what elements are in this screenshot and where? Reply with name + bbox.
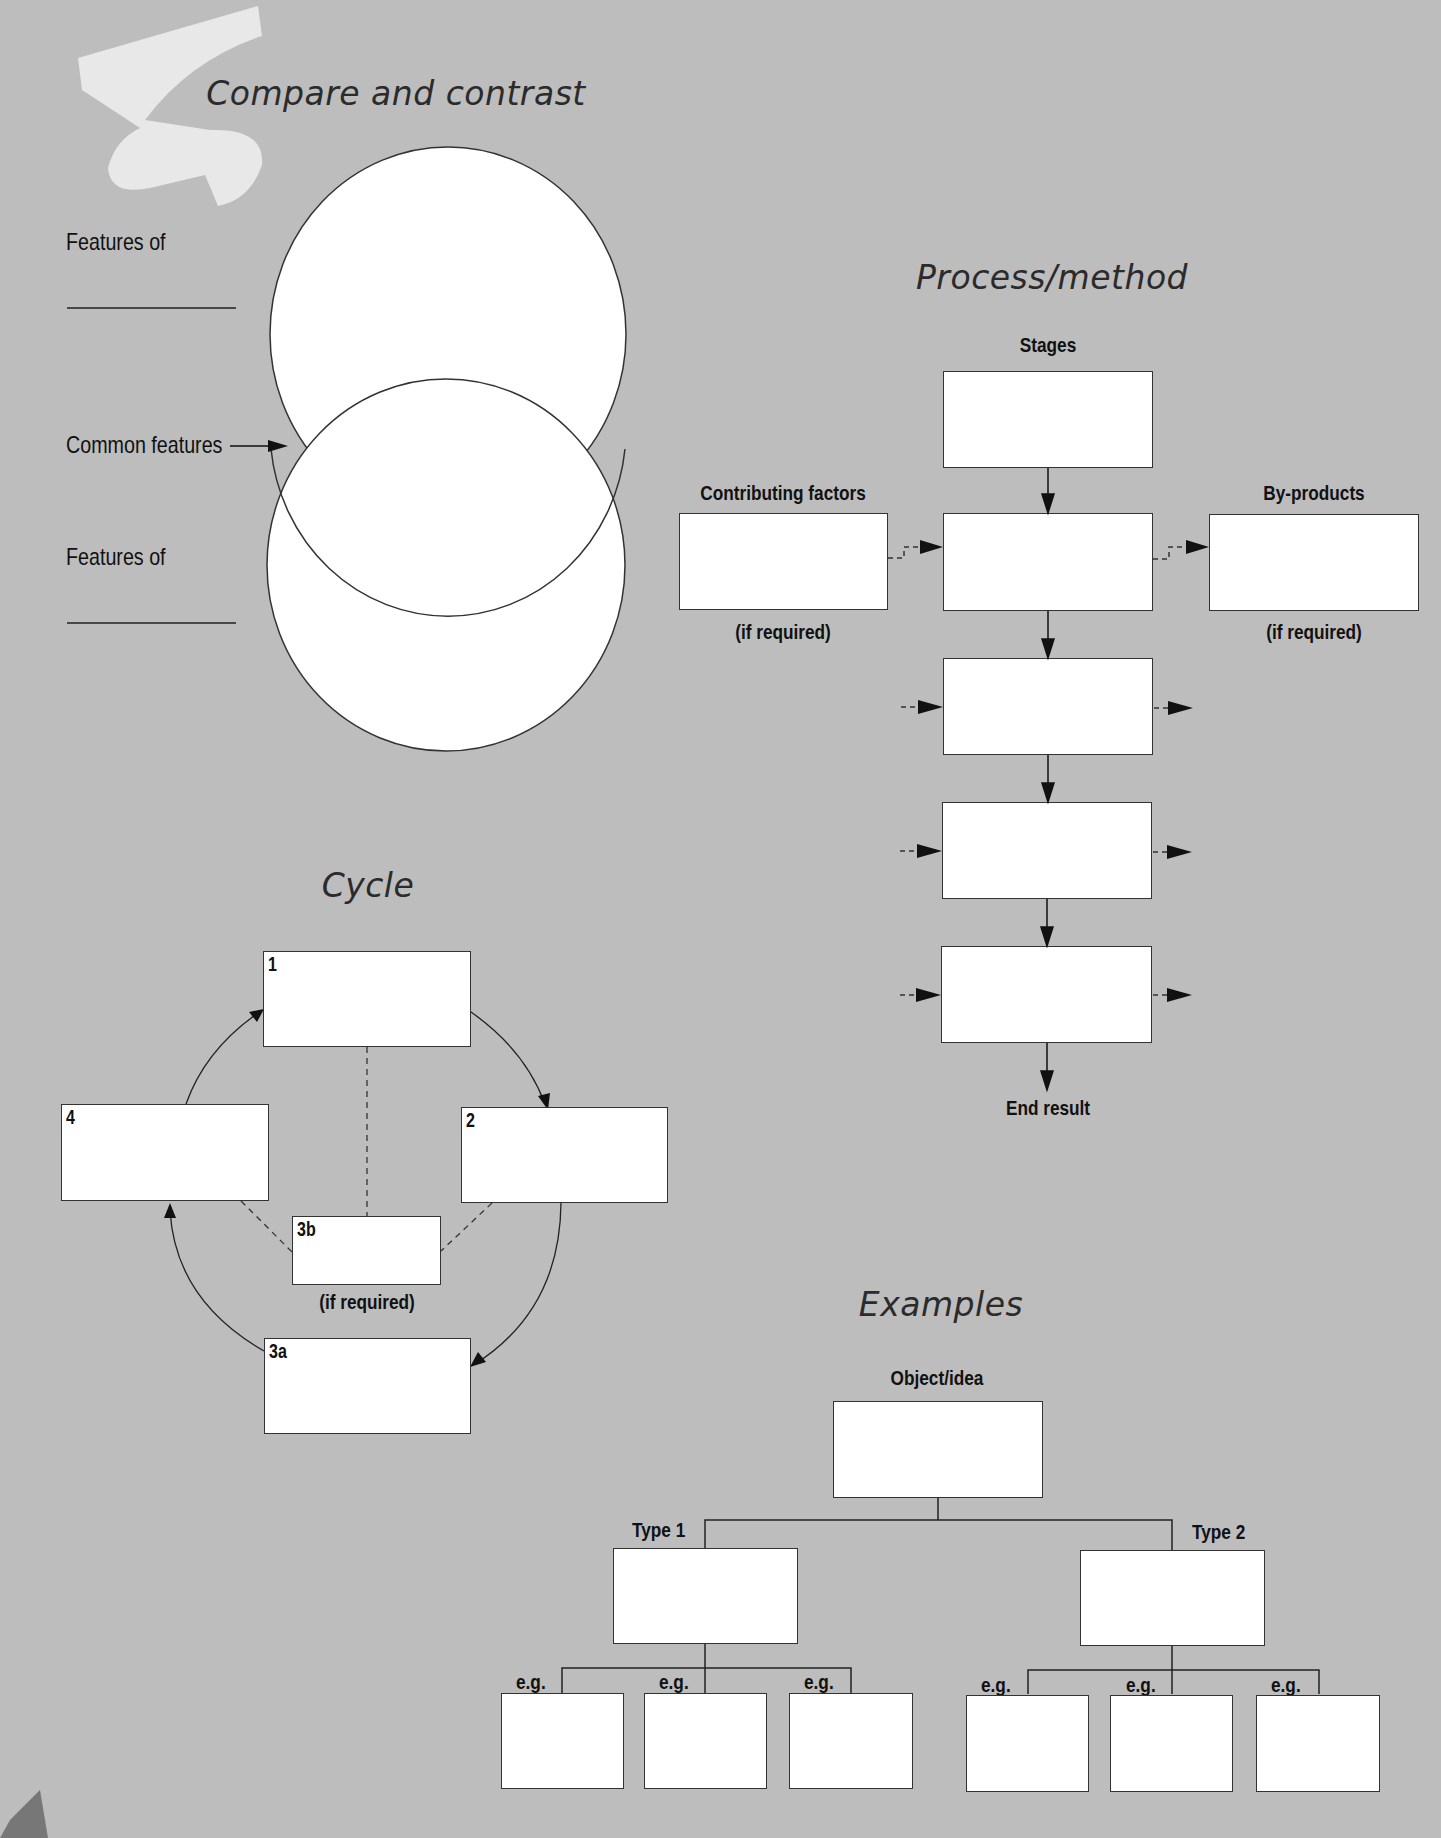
type-1-example-box-3[interactable] [789,1693,913,1789]
type-2-example-box-2[interactable] [1110,1695,1233,1792]
object-idea-box[interactable] [833,1401,1043,1498]
type-2-example-box-3[interactable] [1256,1695,1380,1792]
type-1-example-box-2[interactable] [644,1693,767,1789]
type-2-eg-label-3: e.g. [1271,1673,1301,1697]
graphic-organizers-page: Compare and contrast Features of Common … [0,0,1441,1838]
type-1-example-box-1[interactable] [501,1693,624,1789]
type-1-eg-label-1: e.g. [516,1670,546,1694]
type-1-eg-label-2: e.g. [659,1670,689,1694]
type-2-eg-label-1: e.g. [981,1673,1011,1697]
type-2-box[interactable] [1080,1550,1265,1646]
type-2-example-box-1[interactable] [966,1695,1089,1792]
type-1-box[interactable] [613,1548,798,1644]
type-1-eg-label-3: e.g. [804,1670,834,1694]
type-2-eg-label-2: e.g. [1126,1673,1156,1697]
